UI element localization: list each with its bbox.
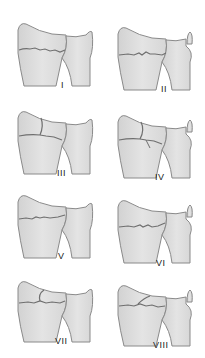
panel-label: V [58, 252, 65, 261]
panel-type-vi: VI [110, 195, 205, 283]
radius-ulna-illustration-i [10, 18, 110, 93]
panel-label: IV [155, 173, 165, 182]
panel-type-i: I [10, 18, 110, 106]
panel-type-viii: VIII [110, 280, 205, 358]
panel-type-vii: VII [10, 276, 110, 358]
panel-label: III [57, 169, 66, 178]
panel-type-ii: II [110, 22, 205, 110]
panel-type-iv: IV [110, 110, 205, 198]
panel-label: I [61, 81, 64, 90]
panel-type-iii: III [10, 106, 110, 194]
panel-label: II [161, 85, 167, 94]
panel-label: VIII [153, 341, 169, 350]
panel-label: VI [156, 259, 166, 268]
panel-type-v: V [10, 190, 110, 278]
radius-ulna-illustration-ii [110, 22, 205, 97]
panel-label: VII [55, 337, 68, 346]
